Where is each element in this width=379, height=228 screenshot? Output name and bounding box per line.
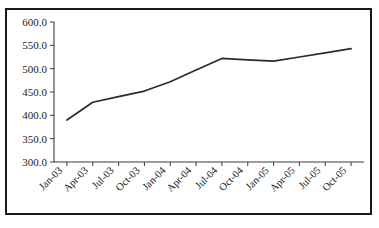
y-axis-tick-label: 450.0	[22, 86, 47, 98]
y-axis-tick-marks	[50, 22, 54, 162]
x-axis-tick-marks	[67, 162, 351, 166]
x-axis-tick-labels: Jan-03Apr-03Jul-03Oct-03Jan-04Apr-04Jul-…	[37, 164, 349, 194]
x-axis-tick-label: Apr-04	[164, 164, 194, 194]
y-axis-tick-label: 300.0	[22, 156, 47, 168]
y-axis-tick-label: 350.0	[22, 133, 47, 145]
line-chart-plot: 600.0550.0500.0450.0400.0350.0300.0 Jan-…	[7, 10, 374, 217]
chart-frame: 600.0550.0500.0450.0400.0350.0300.0 Jan-…	[5, 8, 372, 215]
x-axis-tick-label: Apr-05	[268, 165, 297, 194]
x-axis-tick-label: Jul-03	[90, 165, 116, 191]
y-axis-tick-label: 400.0	[22, 109, 47, 121]
x-axis-tick-label: Oct-05	[320, 165, 348, 193]
clipped-chart-title	[0, 0, 379, 4]
x-axis-tick-label: Jan-05	[243, 165, 271, 193]
y-axis-tick-label: 500.0	[22, 63, 47, 75]
y-axis-tick-labels: 600.0550.0500.0450.0400.0350.0300.0	[22, 16, 47, 168]
y-axis-tick-label: 550.0	[22, 39, 47, 51]
x-axis-tick-label: Apr-03	[61, 165, 90, 194]
x-axis-tick-label: Oct-03	[113, 165, 141, 193]
x-axis-tick-label: Jul-05	[296, 165, 322, 191]
x-axis-tick-label: Jul-04	[193, 164, 220, 191]
x-axis-tick-label: Jan-03	[37, 165, 65, 193]
y-axis-tick-label: 600.0	[22, 16, 47, 28]
data-series-line	[67, 49, 351, 120]
x-axis-tick-label: Oct-04	[217, 164, 246, 193]
x-axis-tick-label: Jan-04	[140, 164, 168, 192]
